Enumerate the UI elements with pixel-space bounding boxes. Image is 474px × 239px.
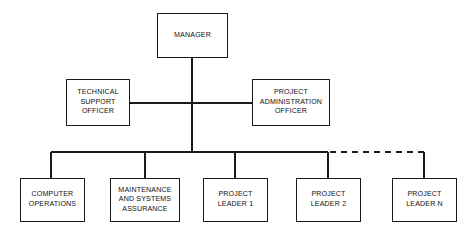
node-project-leader-1[interactable]: PROJECTLEADER 1 [203, 178, 268, 222]
org-chart: MANAGERTECHNICALSUPPORTOFFICERPROJECTADM… [0, 0, 474, 239]
node-project-leader-n[interactable]: PROJECTLEADER N [392, 178, 457, 222]
node-label-line: LEADER 2 [311, 200, 347, 210]
node-project-administration-officer[interactable]: PROJECTADMINISTRATIONOFFICER [252, 79, 330, 126]
node-label-line: COMPUTER [32, 190, 74, 200]
node-label-line: MAINTENANCE [118, 186, 171, 196]
node-label-line: PROJECT [274, 88, 308, 98]
node-label-line: AND SYSTEMS [119, 195, 172, 205]
node-maintenance-and-systems-assurance[interactable]: MAINTENANCEAND SYSTEMSASSURANCE [110, 178, 180, 222]
node-label-line: LEADER N [406, 200, 443, 210]
node-project-leader-2[interactable]: PROJECTLEADER 2 [296, 178, 361, 222]
node-label-line: TECHNICAL [77, 88, 119, 98]
node-label-line: ADMINISTRATION [260, 98, 322, 108]
node-label-line: OFFICER [275, 107, 307, 117]
node-label-line: SUPPORT [80, 98, 115, 108]
node-label-line: ASSURANCE [122, 205, 168, 215]
node-label-line: PROJECT [218, 190, 252, 200]
node-label-line: MANAGER [174, 31, 211, 41]
node-label-line: PROJECT [407, 190, 441, 200]
node-label-line: OPERATIONS [29, 200, 76, 210]
node-label-line: OFFICER [82, 107, 114, 117]
node-technical-support-officer[interactable]: TECHNICALSUPPORTOFFICER [66, 79, 130, 126]
node-label-line: PROJECT [311, 190, 345, 200]
node-computer-operations[interactable]: COMPUTEROPERATIONS [20, 178, 85, 222]
node-label-line: LEADER 1 [218, 200, 254, 210]
node-manager[interactable]: MANAGER [157, 13, 228, 58]
